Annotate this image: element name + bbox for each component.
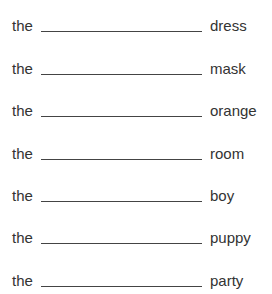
worksheet-row: the orange [0,102,272,122]
noun-text: boy [210,187,234,205]
noun-text: mask [210,60,246,78]
worksheet-row: the boy [0,187,272,207]
worksheet-row: the party [0,272,272,292]
noun-text: puppy [210,229,251,247]
article-text: the [12,145,33,163]
fill-in-blank[interactable] [41,159,202,160]
fill-in-blank[interactable] [41,74,202,75]
article-text: the [12,17,33,35]
article-text: the [12,102,33,120]
fill-in-blank[interactable] [41,31,202,32]
noun-text: room [210,145,244,163]
noun-text: dress [210,17,247,35]
worksheet-row: the room [0,145,272,165]
fill-in-blank[interactable] [41,286,202,287]
article-text: the [12,187,33,205]
worksheet-row: the mask [0,60,272,80]
article-text: the [12,60,33,78]
worksheet-row: the dress [0,17,272,37]
fill-in-blank[interactable] [41,243,202,244]
noun-text: orange [210,102,257,120]
noun-text: party [210,272,243,290]
fill-in-blank[interactable] [41,116,202,117]
fill-in-blank[interactable] [41,201,202,202]
worksheet-row: the puppy [0,229,272,249]
article-text: the [12,229,33,247]
article-text: the [12,272,33,290]
